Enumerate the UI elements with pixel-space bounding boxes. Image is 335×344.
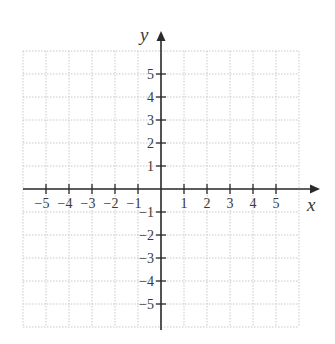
y-tick-label: 4 [147, 90, 154, 105]
x-tick-label: 3 [227, 196, 234, 211]
y-tick-label: 2 [147, 136, 154, 151]
y-tick-label: −5 [139, 297, 154, 312]
y-tick-label: −2 [139, 228, 154, 243]
x-axis-arrow-icon [310, 185, 320, 194]
axes [23, 31, 320, 330]
y-axis-label: y [138, 24, 149, 45]
y-tick-label: 1 [147, 159, 154, 174]
y-tick-label: 3 [147, 113, 154, 128]
x-axis-label: x [306, 194, 316, 215]
x-tick-label: 5 [273, 196, 280, 211]
y-tick-label: −1 [139, 205, 154, 220]
y-axis-arrow-icon [157, 31, 166, 41]
coordinate-plane: −5−4−3−2−11234554321−1−2−3−4−5 y x [0, 0, 335, 344]
x-tick-label: −2 [104, 196, 119, 211]
y-tick-label: −3 [139, 251, 154, 266]
x-tick-label: −4 [58, 196, 73, 211]
x-tick-label: −5 [35, 196, 50, 211]
y-tick-label: −4 [139, 274, 154, 289]
x-tick-label: 1 [181, 196, 188, 211]
x-tick-label: 4 [250, 196, 257, 211]
y-tick-label: 5 [147, 67, 154, 82]
x-tick-label: 2 [204, 196, 211, 211]
x-tick-label: −3 [81, 196, 96, 211]
